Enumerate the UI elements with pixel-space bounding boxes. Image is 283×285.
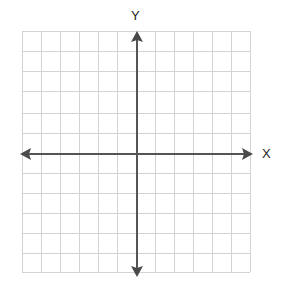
x-axis-label: X bbox=[262, 147, 271, 160]
coordinate-plane bbox=[0, 0, 283, 285]
plot-background bbox=[0, 0, 283, 285]
y-axis-label: Y bbox=[131, 9, 140, 22]
